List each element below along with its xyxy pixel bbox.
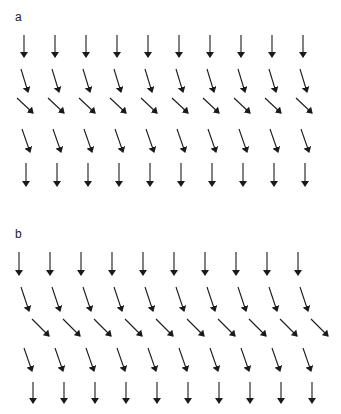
vector-arrow	[296, 98, 312, 113]
vector-arrow	[53, 129, 61, 152]
vector-arrow	[125, 319, 142, 336]
vector-arrow	[145, 69, 152, 92]
vector-arrow	[303, 348, 311, 371]
vector-arrow	[84, 129, 92, 152]
vector-arrow	[17, 98, 33, 113]
vector-arrow	[115, 129, 123, 152]
vector-arrow	[52, 69, 59, 92]
vector-arrow	[22, 129, 30, 152]
vector-arrow	[179, 348, 187, 371]
vector-arrow	[145, 287, 153, 311]
vector-arrow	[110, 98, 126, 113]
vector-arrow	[207, 69, 214, 92]
vector-arrow	[203, 98, 219, 113]
vector-arrow	[218, 319, 235, 336]
vector-arrow	[172, 98, 188, 113]
vector-arrow	[32, 319, 49, 336]
vector-arrow	[300, 69, 307, 92]
vector-arrow	[55, 348, 63, 371]
vector-field-panel-b	[19, 252, 328, 403]
vector-arrow	[117, 348, 125, 371]
vector-arrow	[114, 69, 121, 92]
vector-arrow	[301, 129, 309, 152]
vector-arrow	[176, 287, 184, 311]
vector-arrow	[176, 69, 183, 92]
vector-arrow	[270, 129, 278, 152]
vector-arrow	[239, 129, 247, 152]
vector-field-diagram	[0, 0, 341, 414]
vector-arrow	[269, 287, 277, 311]
vector-arrow	[280, 319, 297, 336]
vector-arrow	[79, 98, 95, 113]
vector-arrow	[24, 348, 32, 371]
vector-field-panel-a	[17, 35, 312, 186]
vector-arrow	[86, 348, 94, 371]
vector-arrow	[272, 348, 280, 371]
vector-arrow	[21, 287, 29, 311]
vector-arrow	[63, 319, 80, 336]
vector-arrow	[265, 98, 281, 113]
vector-arrow	[300, 287, 308, 311]
vector-arrow	[234, 98, 250, 113]
vector-arrow	[156, 319, 173, 336]
vector-arrow	[207, 287, 215, 311]
vector-arrow	[148, 348, 156, 371]
vector-arrow	[187, 319, 204, 336]
vector-arrow	[83, 287, 91, 311]
vector-arrow	[208, 129, 216, 152]
vector-arrow	[241, 348, 249, 371]
vector-arrow	[21, 69, 28, 92]
vector-arrow	[141, 98, 157, 113]
vector-arrow	[83, 69, 90, 92]
vector-arrow	[210, 348, 218, 371]
vector-arrow	[94, 319, 111, 336]
vector-arrow	[311, 319, 328, 336]
vector-arrow	[238, 69, 245, 92]
vector-arrow	[52, 287, 60, 311]
vector-arrow	[269, 69, 276, 92]
vector-arrow	[249, 319, 266, 336]
vector-arrow	[146, 129, 154, 152]
vector-arrow	[114, 287, 122, 311]
vector-arrow	[177, 129, 185, 152]
vector-arrow	[238, 287, 246, 311]
vector-arrow	[48, 98, 64, 113]
